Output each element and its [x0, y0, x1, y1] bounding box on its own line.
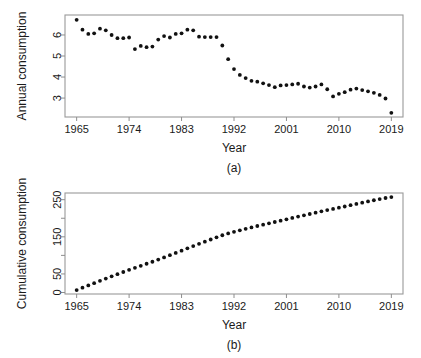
data-point — [180, 249, 184, 253]
data-point — [354, 202, 358, 206]
data-point — [250, 79, 254, 83]
x-tick-label: 1974 — [117, 123, 141, 135]
data-point — [185, 246, 189, 250]
data-point — [162, 255, 166, 259]
x-tick-label: 1983 — [169, 300, 193, 312]
data-point — [238, 73, 242, 77]
data-point — [279, 84, 283, 88]
x-tick-label: 2010 — [327, 123, 351, 135]
data-point — [81, 28, 85, 32]
data-point — [209, 238, 213, 242]
x-tick-label: 1974 — [117, 300, 141, 312]
x-tick-label: 2010 — [327, 300, 351, 312]
data-point — [116, 36, 120, 40]
data-point — [308, 86, 312, 90]
data-point — [116, 272, 120, 276]
y-tick-label: 0 — [51, 289, 63, 295]
y-axis-title: Cumulative consumption — [15, 178, 29, 309]
data-point — [104, 28, 108, 32]
x-tick-label: 1983 — [169, 123, 193, 135]
data-point — [81, 286, 85, 290]
data-point — [261, 81, 265, 85]
data-point — [279, 219, 283, 223]
data-point — [174, 32, 178, 36]
data-point — [92, 31, 96, 35]
y-tick-label: 50 — [51, 268, 63, 280]
y-tick-label: 250 — [51, 191, 63, 209]
x-tick-label: 2001 — [274, 300, 298, 312]
data-point — [273, 85, 277, 89]
data-point — [156, 258, 160, 262]
y-axis-title: Annual consumption — [15, 12, 29, 121]
data-point — [372, 198, 376, 202]
data-point — [389, 111, 393, 115]
data-point — [285, 217, 289, 221]
x-tick-label: 2019 — [379, 123, 403, 135]
data-point — [104, 277, 108, 281]
x-tick-label: 1965 — [64, 300, 88, 312]
data-point — [145, 262, 149, 266]
data-point — [168, 253, 172, 257]
data-point — [302, 85, 306, 89]
data-point — [238, 228, 242, 232]
plot-frame — [65, 193, 403, 294]
data-point — [360, 201, 364, 205]
cumulative-consumption-plot: 0501502501965197419831992200120102019Yea… — [0, 178, 421, 358]
x-tick-label: 2019 — [379, 300, 403, 312]
data-point — [145, 45, 149, 49]
data-point — [121, 270, 125, 274]
data-point — [133, 266, 137, 270]
data-point — [209, 35, 213, 39]
data-point — [215, 35, 219, 39]
data-point — [389, 195, 393, 199]
y-tick-label: 5 — [51, 53, 63, 59]
data-point — [220, 44, 224, 48]
data-point — [180, 31, 184, 35]
data-point — [203, 240, 207, 244]
data-point — [337, 206, 341, 210]
data-point — [349, 88, 353, 92]
data-point — [255, 80, 259, 84]
data-point — [162, 34, 166, 38]
data-point — [127, 36, 131, 40]
data-point — [360, 88, 364, 92]
data-point — [255, 224, 259, 228]
x-tick-label: 2001 — [274, 123, 298, 135]
data-point — [151, 260, 155, 264]
data-point — [197, 242, 201, 246]
data-point — [290, 216, 294, 220]
data-point — [215, 235, 219, 239]
data-point — [197, 35, 201, 39]
data-point — [185, 28, 189, 32]
data-point — [384, 97, 388, 101]
data-point — [325, 87, 329, 91]
panel-caption: (b) — [227, 338, 242, 352]
data-point — [220, 233, 224, 237]
data-point — [372, 91, 376, 95]
data-point — [378, 93, 382, 97]
data-point — [191, 28, 195, 32]
data-point — [156, 38, 160, 42]
data-point — [226, 232, 230, 236]
data-point — [244, 227, 248, 231]
x-tick-label: 1992 — [222, 123, 246, 135]
data-point — [273, 220, 277, 224]
x-axis-title: Year — [222, 318, 246, 332]
chart-panel-cumulative-consumption: 0501502501965197419831992200120102019Yea… — [0, 178, 421, 358]
data-point — [75, 18, 79, 22]
data-point — [354, 87, 358, 91]
x-tick-label: 1965 — [64, 123, 88, 135]
figure-container: 34561965197419831992200120102019YearAnnu… — [0, 0, 421, 358]
data-point — [384, 196, 388, 200]
x-axis-title: Year — [222, 141, 246, 155]
data-point — [244, 76, 248, 80]
data-point — [325, 208, 329, 212]
data-point — [127, 268, 131, 272]
annual-consumption-plot: 34561965197419831992200120102019YearAnnu… — [0, 0, 421, 178]
data-point — [267, 83, 271, 87]
y-tick-label: 4 — [51, 74, 63, 80]
data-point — [203, 35, 207, 39]
data-point — [75, 288, 79, 292]
data-point — [320, 83, 324, 87]
data-point — [366, 200, 370, 204]
